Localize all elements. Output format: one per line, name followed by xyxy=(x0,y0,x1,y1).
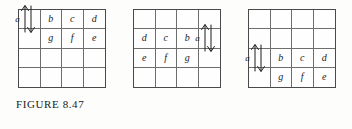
grid-cell xyxy=(271,29,293,48)
cell-letter: g xyxy=(48,33,53,43)
arrow-label: a xyxy=(245,53,250,62)
cell-letter: f xyxy=(71,33,74,43)
grid-cell xyxy=(41,49,63,68)
grid-cell xyxy=(41,68,63,87)
grid-cell: d xyxy=(84,10,106,29)
grid-cell xyxy=(84,49,106,68)
grid-cell: f xyxy=(292,68,314,87)
grid-cell xyxy=(271,10,293,29)
grid-cell: b xyxy=(271,49,293,68)
grid-cell xyxy=(199,68,221,87)
grid-cell: c xyxy=(156,29,178,48)
cell-letter: d xyxy=(322,53,327,63)
cell-letter: f xyxy=(301,72,304,82)
grid-cell: b xyxy=(177,29,199,48)
grid-cell xyxy=(249,10,271,29)
cell-letter: e xyxy=(92,33,96,43)
grid-cell xyxy=(249,68,271,87)
figure-caption: FIGURE 8.47 xyxy=(16,98,84,110)
grid-cell: e xyxy=(84,29,106,48)
grid-cell: c xyxy=(292,49,314,68)
grid-cell xyxy=(314,10,336,29)
grid-cell xyxy=(134,10,156,29)
cell-letter: b xyxy=(185,33,190,43)
grid-cell: c xyxy=(62,10,84,29)
grid-cell xyxy=(177,10,199,29)
grid-cell xyxy=(19,68,41,87)
grid-left: abcdgfe xyxy=(18,9,106,88)
grid-cell xyxy=(156,68,178,87)
cell-letter: d xyxy=(142,33,147,43)
grid-cell xyxy=(249,29,271,48)
grid-cell xyxy=(314,29,336,48)
cell-letter: b xyxy=(278,53,283,63)
cell-letter: f xyxy=(164,53,167,63)
grid-cell xyxy=(19,29,41,48)
grid-cell: f xyxy=(156,49,178,68)
grid-cell: g xyxy=(177,49,199,68)
grid-right: abcdgfe xyxy=(248,9,336,88)
grid-cell xyxy=(292,10,314,29)
cell-letter: g xyxy=(185,53,190,63)
grid-cell xyxy=(177,68,199,87)
cell-letter: e xyxy=(322,72,326,82)
grid-cell xyxy=(62,68,84,87)
grid-cell: e xyxy=(314,68,336,87)
grid-cell xyxy=(134,68,156,87)
grid-cell: g xyxy=(271,68,293,87)
cell-letter: d xyxy=(92,14,97,24)
grid-cell xyxy=(62,49,84,68)
grid-cell: f xyxy=(62,29,84,48)
grid-cell: a xyxy=(19,10,41,29)
grid-cell: d xyxy=(314,49,336,68)
cell-letter: c xyxy=(70,14,74,24)
grid-cell xyxy=(84,68,106,87)
grid-middle: dcbaefg xyxy=(133,9,221,88)
grid-cell: a xyxy=(249,49,271,68)
grid-cell: g xyxy=(41,29,63,48)
figure-container: abcdgfedcbaefgabcdgfeFIGURE 8.47 xyxy=(0,0,352,129)
grid-cell xyxy=(199,49,221,68)
grid-cell xyxy=(199,10,221,29)
cell-letter: g xyxy=(278,72,283,82)
grid-cell xyxy=(292,29,314,48)
cell-letter: c xyxy=(164,33,168,43)
grid-cell: b xyxy=(41,10,63,29)
grid-cell: d xyxy=(134,29,156,48)
cell-letter: b xyxy=(48,14,53,24)
grid-cell: a xyxy=(199,29,221,48)
grid-cell xyxy=(156,10,178,29)
grid-cell xyxy=(19,49,41,68)
cell-letter: c xyxy=(300,53,304,63)
cell-letter: e xyxy=(142,53,146,63)
grid-cell: e xyxy=(134,49,156,68)
arrow-label: a xyxy=(15,15,20,24)
